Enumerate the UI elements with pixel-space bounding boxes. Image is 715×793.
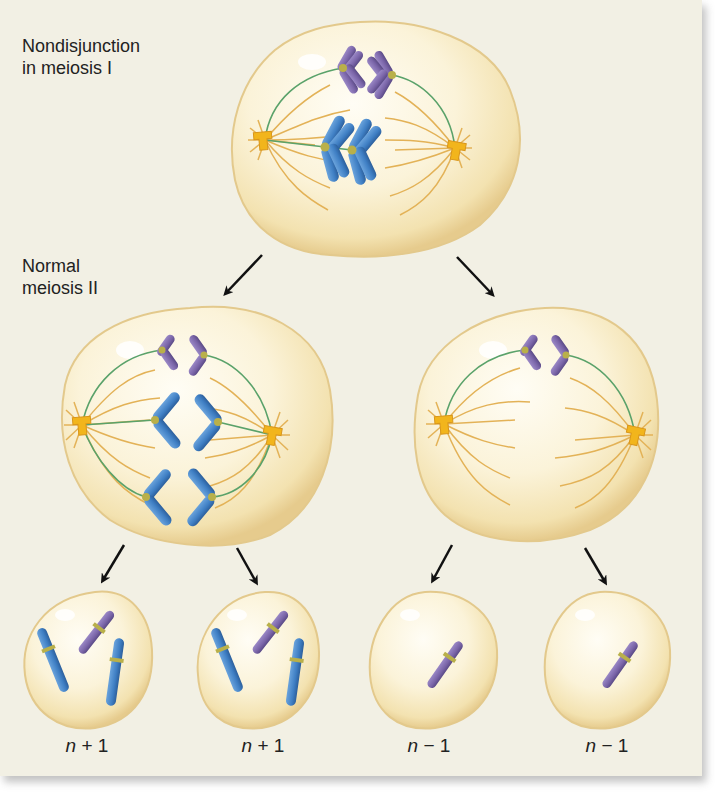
outcome-operator: − — [418, 735, 440, 756]
cell-meiosis-1 — [232, 22, 520, 257]
outcome-variable: n — [586, 735, 597, 756]
outcome-variable: n — [66, 735, 77, 756]
arrow-to-daughter-4 — [585, 548, 605, 582]
arrow-to-daughter-2 — [237, 548, 256, 582]
outcome-variable: n — [408, 735, 419, 756]
arrow-to-daughter-3 — [433, 545, 452, 580]
outcome-label-3: n − 1 — [379, 735, 479, 757]
daughter-cell-1 — [24, 592, 152, 729]
outcome-number: 1 — [618, 735, 629, 756]
outcome-label-4: n − 1 — [557, 735, 657, 757]
label-line-1: Nondisjunction — [22, 35, 140, 57]
daughter-cell-3 — [370, 592, 497, 729]
outcome-label-2: n + 1 — [213, 735, 313, 757]
daughter-cell-2 — [198, 592, 319, 729]
label-line-2: in meiosis I — [22, 57, 140, 79]
outcome-label-1: n + 1 — [37, 735, 137, 757]
arrow-to-right-cell — [457, 257, 492, 294]
daughter-cell-4 — [545, 592, 670, 729]
outcome-operator: + — [76, 735, 98, 756]
outcome-operator: − — [596, 735, 618, 756]
arrow-to-daughter-1 — [103, 545, 124, 580]
label-line-1: Normal — [22, 255, 98, 277]
label-line-2: meiosis II — [22, 277, 98, 299]
arrow-to-left-cell — [226, 255, 262, 293]
cell-meiosis-2-right — [415, 308, 659, 541]
outcome-number: 1 — [98, 735, 109, 756]
label-normal-meiosis-2: Normal meiosis II — [22, 255, 98, 299]
label-nondisjunction-meiosis-1: Nondisjunction in meiosis I — [22, 35, 140, 79]
outcome-variable: n — [242, 735, 253, 756]
cell-meiosis-2-left — [62, 307, 333, 546]
outcome-number: 1 — [440, 735, 451, 756]
outcome-number: 1 — [274, 735, 285, 756]
outcome-operator: + — [252, 735, 274, 756]
nondisjunction-diagram — [0, 0, 715, 793]
